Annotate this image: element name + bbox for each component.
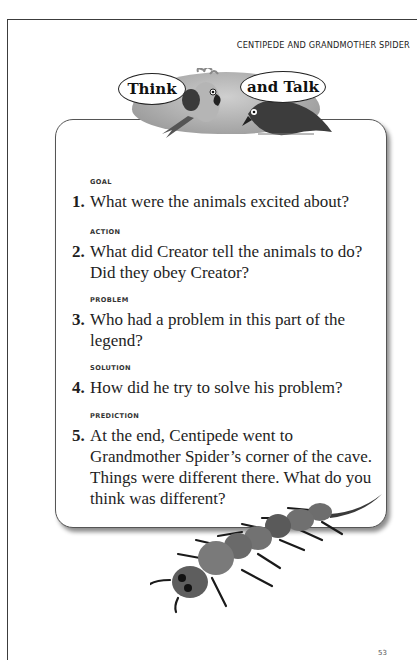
talk-speech-bubble: and Talk [240, 71, 326, 103]
question-problem: PROBLEM 3. Who had a problem in this par… [72, 296, 382, 351]
question-number: 1. [72, 191, 90, 212]
running-head: CENTIPEDE AND GRANDMOTHER SPIDER [210, 40, 410, 50]
question-label: SOLUTION [90, 364, 382, 372]
question-text: How did he try to solve his problem? [90, 377, 343, 398]
question-label: ACTION [90, 228, 382, 236]
question-number: 4. [72, 377, 90, 398]
question-label: PREDICTION [90, 412, 382, 420]
centipede-illustration [150, 488, 390, 618]
question-text: What were the animals excited about? [90, 191, 349, 212]
question-number: 2. [72, 241, 90, 283]
question-solution: SOLUTION 4. How did he try to solve his … [72, 364, 382, 398]
question-label: GOAL [90, 178, 382, 186]
page-number: 53 [378, 649, 387, 657]
question-label: PROBLEM [90, 296, 382, 304]
think-speech-bubble: Think [118, 73, 186, 105]
question-action: ACTION 2. What did Creator tell the anim… [72, 228, 382, 283]
page-border-left [7, 19, 8, 660]
question-text: Who had a problem in this part of the le… [90, 309, 382, 351]
question-number: 5. [72, 425, 90, 509]
page-border-top [7, 19, 417, 20]
question-text: What did Creator tell the animals to do?… [90, 241, 382, 283]
question-number: 3. [72, 309, 90, 351]
question-goal: GOAL 1. What were the animals excited ab… [72, 178, 382, 212]
think-and-talk-banner: Think and Talk [118, 62, 342, 140]
